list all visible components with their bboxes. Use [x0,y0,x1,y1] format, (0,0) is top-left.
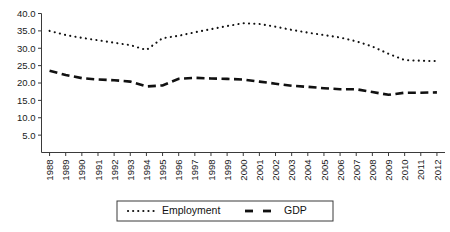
x-tick-label-2002: 2002 [270,160,281,181]
chart-series-group [50,23,437,95]
x-tick-label-2011: 2011 [415,160,426,180]
y-tick-label: 20.0 [17,77,36,88]
x-tick-label-2006: 2006 [335,160,346,181]
x-tick-label-1999: 1999 [222,160,233,181]
y-tick-label: 15.0 [17,95,36,106]
x-tick-label-2003: 2003 [286,160,297,181]
legend-label-gdp: GDP [284,204,307,216]
y-tick-label: 10.0 [17,112,36,123]
x-tick-label-1992: 1992 [109,160,120,181]
series-line-gdp [50,71,437,95]
y-tick-label: 30.0 [17,43,36,54]
x-tick-label-2008: 2008 [367,160,378,181]
x-tick-label-1990: 1990 [76,160,87,181]
x-tick-label-2001: 2001 [254,160,265,181]
x-tick-label-1988: 1988 [44,160,55,181]
x-tick-label-1996: 1996 [173,160,184,181]
x-tick-label-1991: 1991 [93,160,104,181]
line-chart: 5.010.015.020.025.030.035.040.0 19881989… [0,0,450,232]
x-tick-label-2009: 2009 [383,160,394,181]
y-tick-label: 40.0 [17,8,36,19]
y-axis: 5.010.015.020.025.030.035.040.0 [17,8,42,153]
x-tick-label-2004: 2004 [302,160,313,181]
x-tick-label-1995: 1995 [157,160,168,181]
legend-label-employment: Employment [162,204,220,216]
chart-legend: EmploymentGDP [117,201,333,221]
y-tick-label: 25.0 [17,60,36,71]
series-line-employment [50,23,437,61]
y-tick-label: 5.0 [22,130,35,141]
x-tick-label-1998: 1998 [206,160,217,181]
x-tick-label-2007: 2007 [351,160,362,181]
x-axis: 1988198919901991199219931994199519961997… [42,153,446,181]
x-tick-label-2005: 2005 [319,160,330,181]
x-tick-label-1993: 1993 [125,160,136,181]
x-tick-label-2010: 2010 [399,160,410,181]
x-tick-label-1997: 1997 [189,160,200,181]
chart-container: 5.010.015.020.025.030.035.040.0 19881989… [0,0,450,232]
x-tick-label-1994: 1994 [141,160,152,181]
x-tick-label-1989: 1989 [60,160,71,181]
y-tick-label: 35.0 [17,25,36,36]
x-tick-label-2000: 2000 [238,160,249,181]
x-tick-label-2012: 2012 [432,160,443,181]
